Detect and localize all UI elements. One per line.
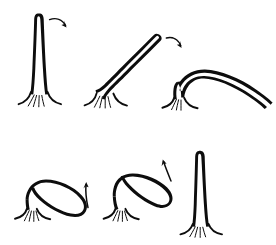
figure-root: Stem bending and recovery sequence (0, 0, 276, 245)
stem-sequence-illustration (0, 0, 276, 245)
